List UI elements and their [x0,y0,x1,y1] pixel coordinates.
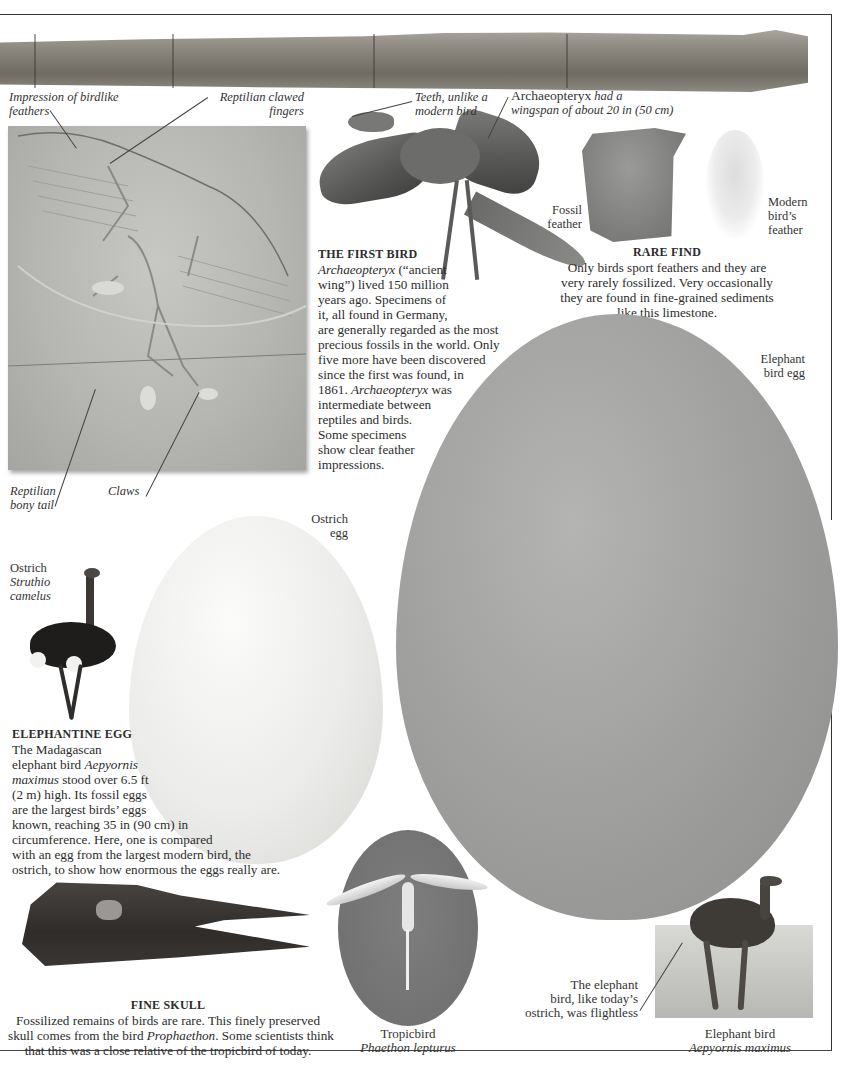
label-line: bird egg [745,366,805,380]
label-line: bony tail [10,498,90,512]
bone-seam [566,34,568,88]
caption-line: years ago. Specimens of [318,292,508,307]
label-line: bird’s [768,209,808,223]
caption-line: with an egg from the largest modern bird… [12,847,312,862]
caption-line: (2 m) high. Its fossil eggs [12,787,312,802]
caption-line: The Madagascan [12,742,312,757]
label-line: fingers [200,104,304,118]
italic-text: Aepyornis [85,757,138,772]
ostrich-plume [30,652,46,668]
common-name: Ostrich [10,561,51,575]
elephant-bird-neck [760,880,770,920]
label-line: Fossil [540,203,582,217]
label-line: Impression of birdlike [9,90,149,104]
caption-heading: FINE SKULL [8,998,328,1013]
tropicbird-body [402,882,414,932]
label-line: feathers [9,104,149,118]
label-bony-tail: Reptilian bony tail [10,484,90,512]
caption-line: it, all found in Germany, [318,307,508,322]
caption-line: since the first was found, in [318,367,508,382]
caption-line: are generally regarded as the most [318,322,508,337]
label-elephant-bird: Elephant bird Aepyornis maximus [680,1027,800,1055]
caption-heading: THE FIRST BIRD [318,247,508,262]
caption-line: circumference. Here, one is compared [12,832,312,847]
label-line: modern bird [415,104,488,118]
label-line: Reptilian [10,484,90,498]
elephantine-egg-caption: ELEPHANTINE EGG The Madagascan elephant … [12,727,312,877]
label-line: Teeth, unlike a [415,90,488,104]
ostrich-leg [69,664,83,720]
bone-seam [34,34,36,88]
text: elephant bird [12,757,85,772]
label-line: The elephant [520,978,638,992]
latin-name: Aepyornis maximus [680,1041,800,1055]
modern-feather-image [706,130,764,238]
page-right-rule-lower [831,672,832,1050]
genus-name: Archaeopteryx [511,88,591,103]
caption-line: like this limestone. [536,305,798,320]
label-modern-feather: Modern bird’s feather [768,195,808,237]
fossil-bone-image [0,30,808,92]
caption-line: are the largest birds’ eggs [12,802,312,817]
caption-line: maximus stood over 6.5 ft [12,772,312,787]
archaeopteryx-body [400,128,480,184]
tropicbird-tail [406,930,409,990]
caption-line: Only birds sport feathers and they are [536,260,798,275]
label-claws: Claws [108,484,139,498]
caption-line: very rarely fossilized. Very occasionall… [536,275,798,290]
latin-name: camelus [10,589,51,603]
label-flightless-note: The elephant bird, like today’s ostrich,… [520,978,638,1020]
label-line: egg [300,526,348,540]
ostrich-head [84,568,100,578]
label-elephant-bird-egg: Elephant bird egg [745,352,805,380]
fine-skull-caption: FINE SKULL Fossilized remains of birds a… [8,998,328,1058]
label-line: bird, like today’s [520,992,638,1006]
italic-text: maximus [12,772,59,787]
label-line: Modern [768,195,808,209]
label-fossil-feather: Fossil feather [540,203,582,231]
label-line: feather [540,217,582,231]
label-ostrich: Ostrich Struthio camelus [10,561,51,603]
elephant-bird-head [760,876,782,886]
italic-text: Archaeopteryx [351,382,428,397]
latin-name: Phaethon lepturus [358,1041,458,1055]
caption-line: precious fossils in the world. Only [318,337,508,352]
text: (“ancient [395,262,447,277]
caption-line: five more have been discovered [318,352,508,367]
text: skull comes from the bird [8,1028,147,1043]
caption-heading: ELEPHANTINE EGG [12,727,312,742]
label-wingspan: Archaeopteryx had a wingspan of about 20… [511,89,831,117]
prophaethon-skull-image [22,878,310,966]
label-line: feather [768,223,808,237]
label-line: Elephant [745,352,805,366]
caption-line: that this was a close relative of the tr… [8,1043,328,1058]
label-line: Reptilian clawed [200,90,304,104]
italic-text: Prophaethon [147,1028,215,1043]
label-clawed-fingers: Reptilian clawed fingers [200,90,304,118]
caption-line: ostrich, to show how enormous the eggs r… [12,862,312,877]
caption-line: wing”) lived 150 million [318,277,508,292]
text: 1861. [318,382,351,397]
label-feather-impression: Impression of birdlike feathers [9,90,149,118]
caption-line: known, reaching 35 in (90 cm) in [12,817,312,832]
caption-line: they are found in fine-grained sediments [536,290,798,305]
caption-line: Fossilized remains of birds are rare. Th… [8,1013,328,1028]
page-top-rule [0,14,832,15]
label-tropicbird: Tropicbird Phaethon lepturus [358,1027,458,1055]
text: stood over 6.5 ft [59,772,149,787]
label-text: had a [591,89,622,103]
label-teeth: Teeth, unlike a modern bird [415,90,488,118]
caption-line: skull comes from the bird Prophaethon. S… [8,1028,328,1043]
text: was [428,382,452,397]
italic-text: Archaeopteryx [318,262,395,277]
caption-line: elephant bird Aepyornis [12,757,312,772]
common-name: Tropicbird [358,1027,458,1041]
label-line: Ostrich [300,512,348,526]
label-line: wingspan of about 20 in (50 cm) [511,103,831,117]
latin-name: Struthio [10,575,51,589]
common-name: Elephant bird [680,1027,800,1041]
archaeopteryx-fossil-slab-image [8,126,306,470]
text: . Some scientists think [215,1028,334,1043]
bone-seam [373,34,375,88]
label-line: Archaeopteryx had a [511,89,831,103]
